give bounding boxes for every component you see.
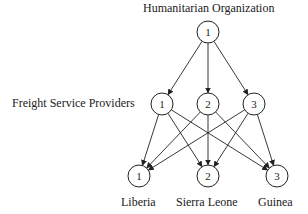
svg-text:2: 2 [205,170,211,182]
node-top1: 1 [197,21,219,43]
svg-text:2: 2 [205,98,211,110]
country-label-guinea: Guinea [258,195,293,209]
node-bot3: 3 [266,165,288,187]
edge-mid1-bot3 [171,110,267,170]
freight-service-providers-label: Freight Service Providers [12,96,135,110]
country-label-sierra-leone: Sierra Leone [176,195,238,209]
country-label-liberia: Liberia [121,195,156,209]
edge-top1-mid3 [214,41,248,94]
node-mid1: 1 [151,93,173,115]
svg-text:1: 1 [136,170,142,182]
edge-mid3-bot1 [148,110,244,170]
node-bot1: 1 [128,165,150,187]
svg-text:1: 1 [159,98,165,110]
svg-text:3: 3 [274,170,280,182]
node-bot2: 2 [197,165,219,187]
node-mid3: 3 [243,93,265,115]
node-mid2: 2 [197,93,219,115]
humanitarian-organization-label: Humanitarian Organization [143,1,274,15]
edge-mid2-bot3 [216,112,270,168]
svg-text:1: 1 [205,26,211,38]
edge-mid2-bot1 [147,112,201,168]
edge-top1-mid1 [168,41,202,94]
svg-text:3: 3 [251,98,257,110]
